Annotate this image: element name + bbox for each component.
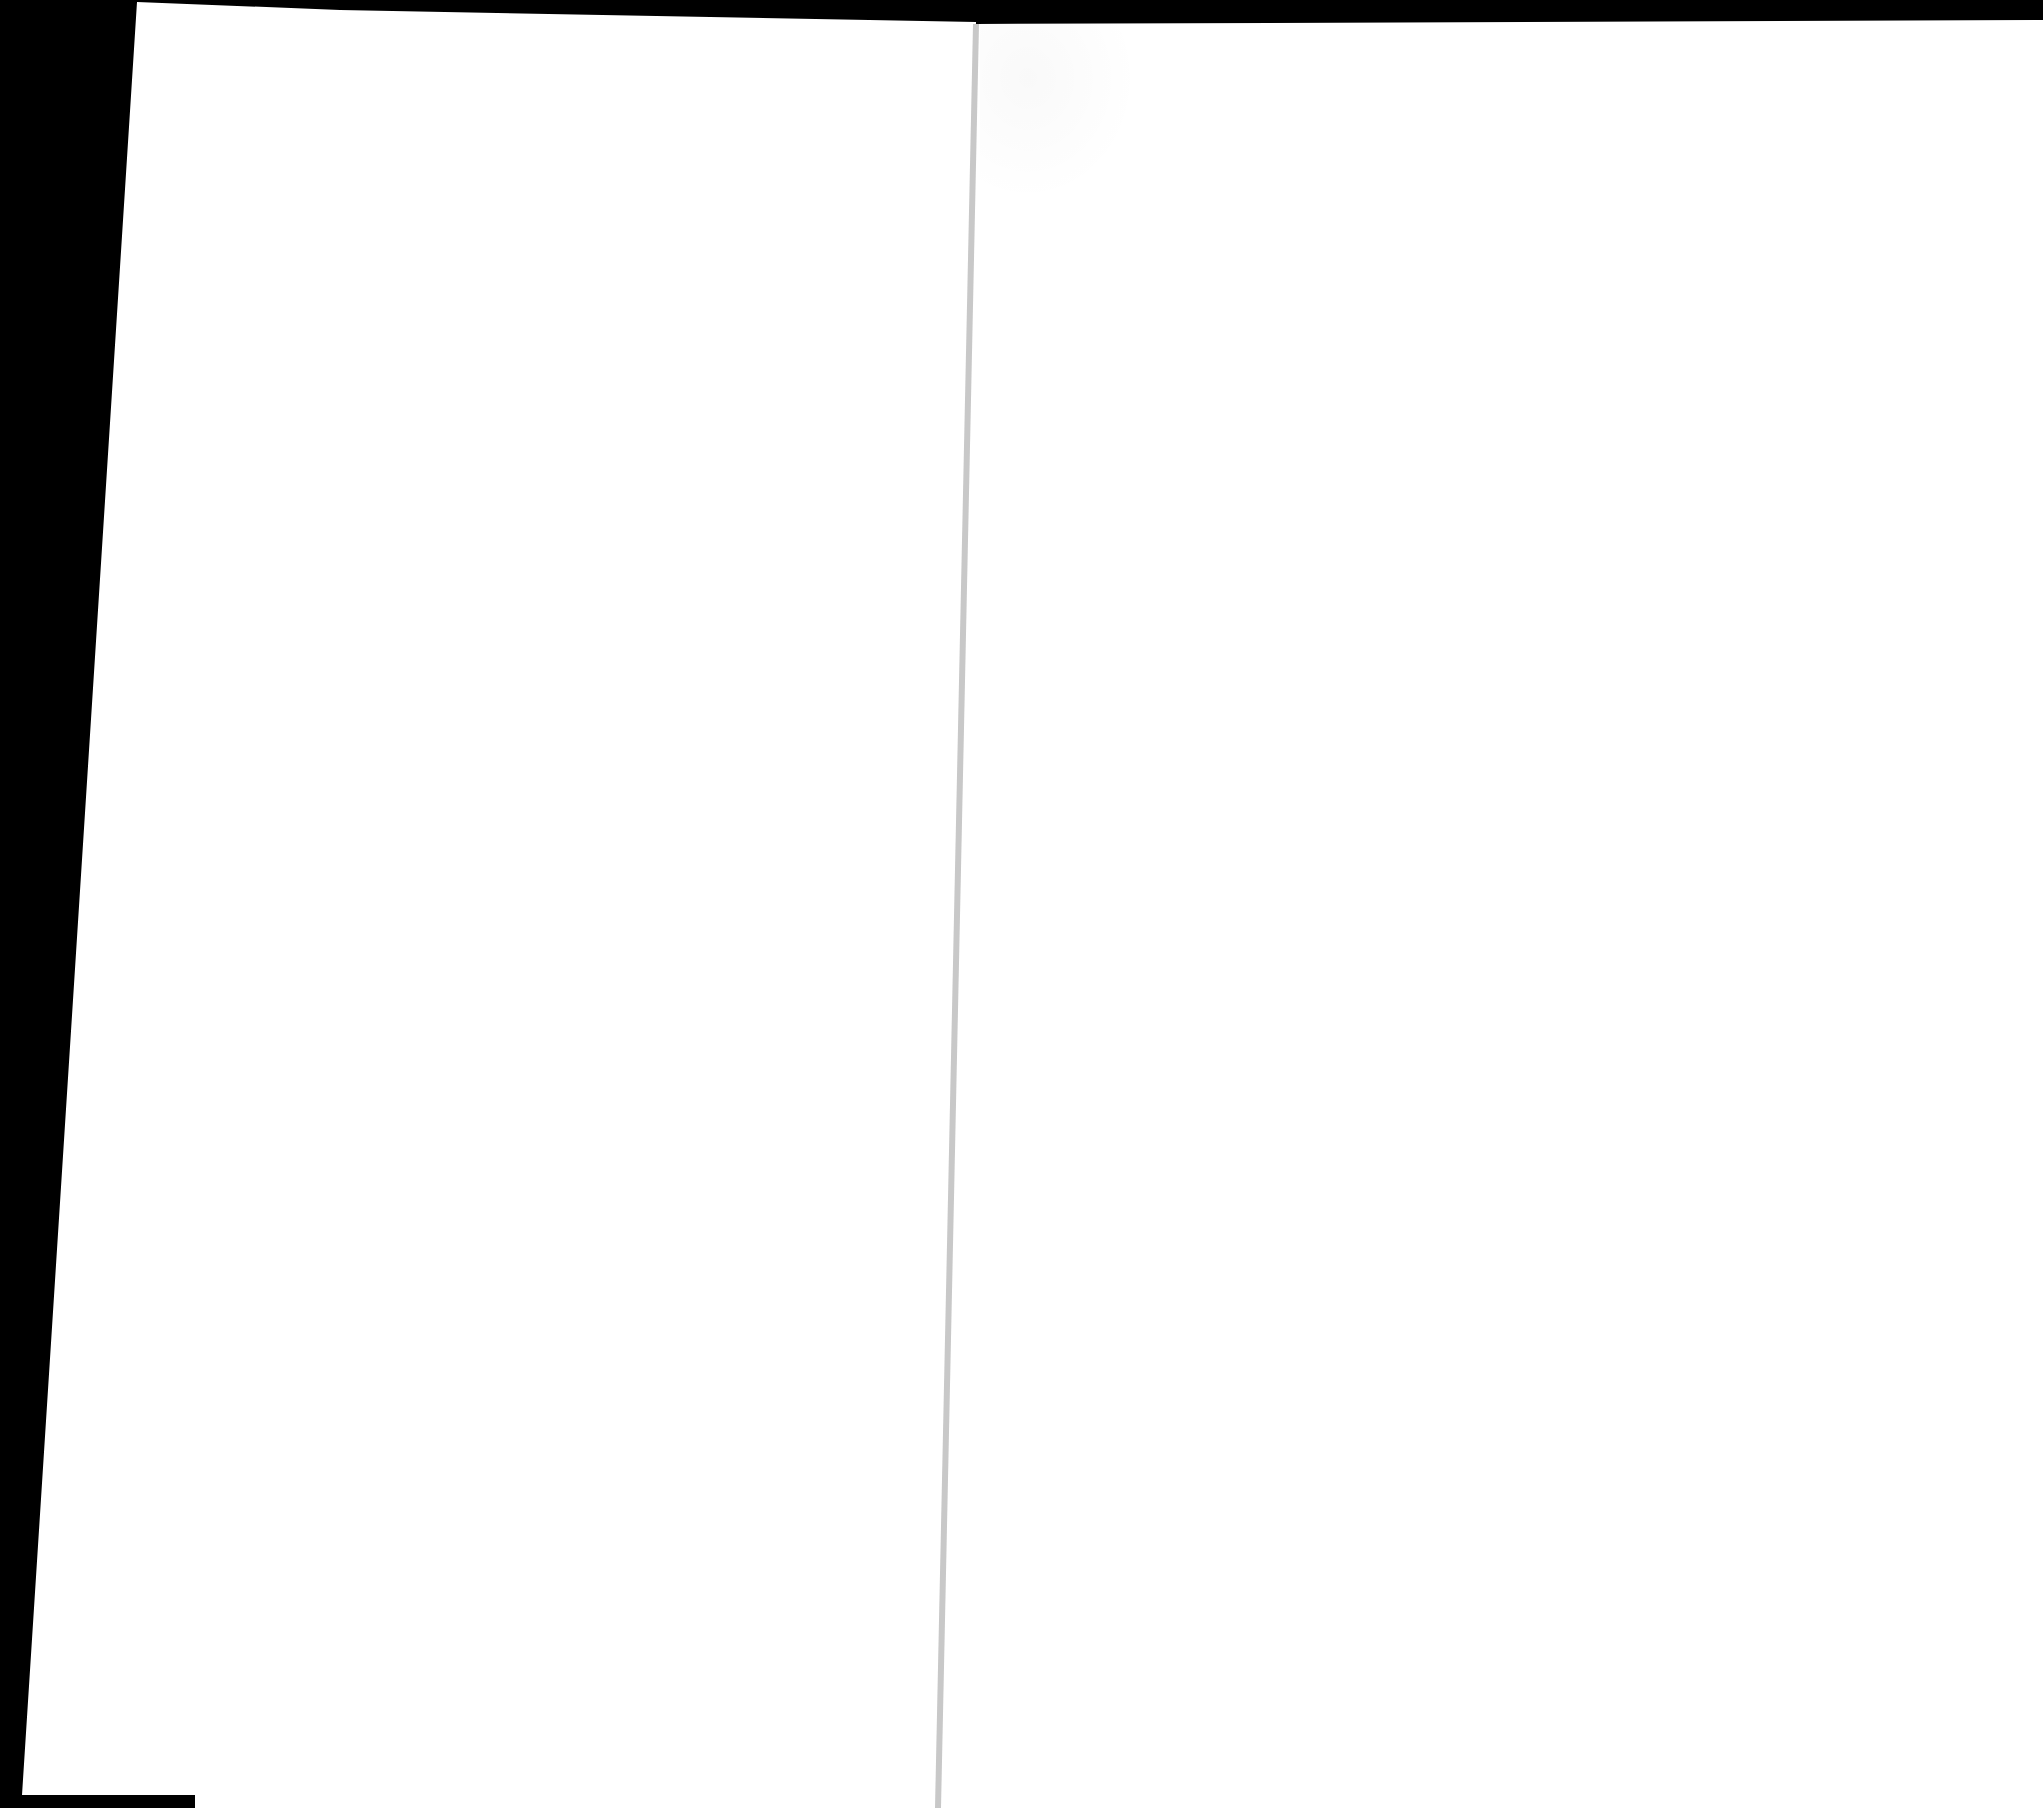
book-spread <box>0 0 2043 1808</box>
show-through-smudge <box>980 24 1140 204</box>
